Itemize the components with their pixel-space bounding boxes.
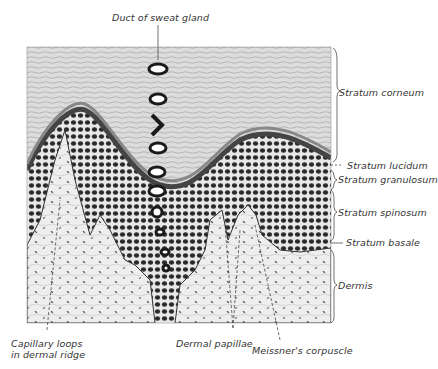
label-dermal-papillae: Dermal papillae: [176, 338, 253, 349]
label-meissners-corpuscle: Meissner's corpuscle: [252, 345, 353, 356]
label-stratum-corneum: Stratum corneum: [339, 87, 424, 98]
label-stratum-spinosum: Stratum spinosum: [338, 207, 427, 218]
label-stratum-lucidum: Stratum lucidum: [347, 160, 428, 171]
label-dermis: Dermis: [338, 280, 373, 291]
label-stratum-granulosum: Stratum granulosum: [338, 174, 438, 185]
label-capillary-loops-line2: in dermal ridge: [11, 349, 85, 360]
skin-diagram: Duct of sweat gland Stratum corneum Stra…: [0, 0, 438, 369]
label-capillary-loops-line1: Capillary loops: [11, 338, 83, 349]
label-duct-of-sweat-gland: Duct of sweat gland: [112, 12, 209, 23]
label-stratum-basale: Stratum basale: [346, 237, 420, 248]
